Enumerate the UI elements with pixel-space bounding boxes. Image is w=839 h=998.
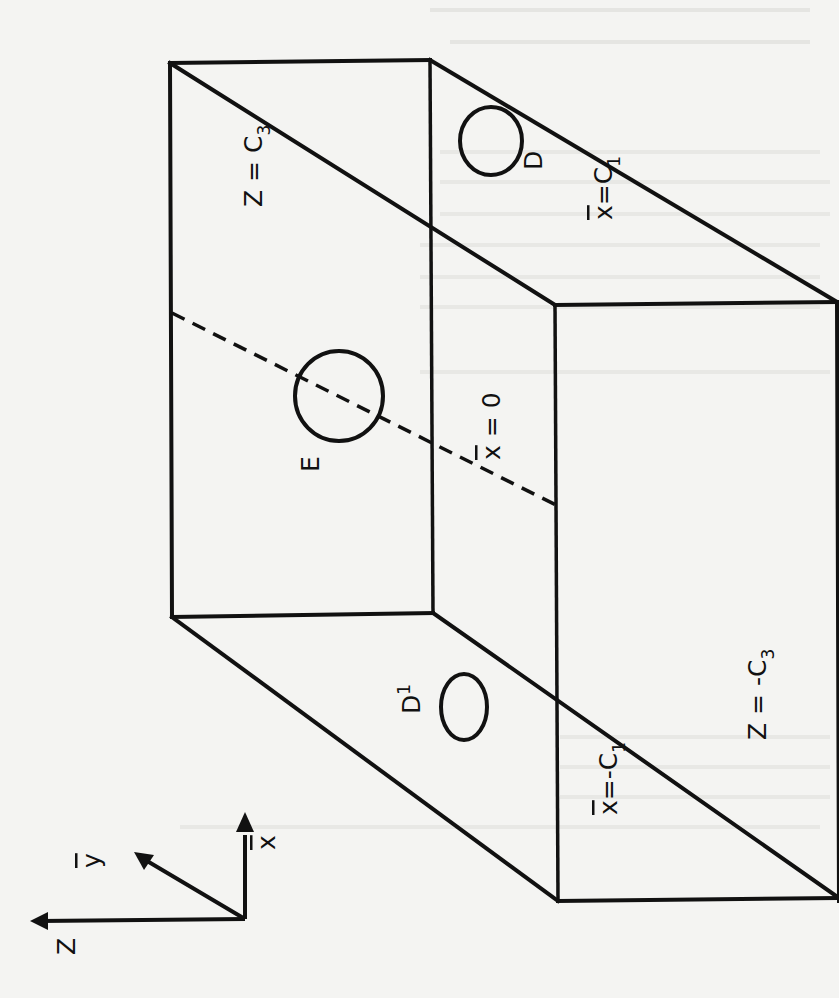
- svg-text:Z: Z: [52, 938, 81, 955]
- x-axis-arrow-icon: [236, 812, 254, 832]
- svg-text:x: x: [252, 835, 281, 850]
- label-hole-e: E: [296, 456, 325, 472]
- svg-text:Z = C3: Z = C3: [239, 125, 274, 207]
- hole-d1: [441, 674, 487, 740]
- svg-text:x = 0: x = 0: [477, 392, 506, 460]
- label-axis-y: y: [77, 853, 106, 868]
- y-axis-line: [142, 858, 245, 919]
- label-axis-z: Z: [52, 938, 81, 955]
- label-z-c3: Z = C3: [239, 125, 274, 207]
- svg-text:Z = -C3: Z = -C3: [743, 649, 778, 740]
- label-x-minus-c1: x=-C1: [594, 742, 629, 815]
- y-axis-arrow-icon: [134, 852, 154, 870]
- svg-text:D: D: [519, 151, 548, 170]
- axis-triad: Z y x: [30, 812, 281, 955]
- label-x-c1: x=C1: [589, 156, 624, 220]
- label-axis-x: x: [252, 835, 281, 850]
- svg-text:x=-C1: x=-C1: [594, 742, 629, 815]
- block-diagram: Z = C3 D x=C1 E x = 0 D1 x=-C1 Z = -C3 Z…: [0, 0, 839, 998]
- z-axis-arrow-icon: [30, 912, 48, 930]
- label-hole-d1: D1: [394, 684, 426, 714]
- svg-text:D1: D1: [394, 684, 426, 714]
- svg-text:y: y: [77, 853, 106, 868]
- hole-d: [460, 107, 522, 175]
- svg-text:x=C1: x=C1: [589, 156, 624, 220]
- svg-text:E: E: [296, 456, 325, 472]
- label-hole-d: D: [519, 151, 548, 170]
- label-x-0: x = 0: [477, 392, 506, 460]
- z-axis-line: [40, 919, 245, 921]
- label-z-minus-c3: Z = -C3: [743, 649, 778, 740]
